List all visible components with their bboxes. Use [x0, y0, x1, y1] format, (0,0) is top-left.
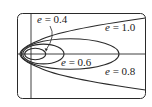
label-e-0-8: e = 0.8 [105, 65, 136, 77]
label-e-0-4: e = 0.4 [37, 13, 68, 25]
label-arrow [46, 26, 52, 50]
conic-diagram: e = 0.4 e = 1.0 e = 0.6 e = 0.8 [0, 0, 152, 107]
label-e-1-0: e = 1.0 [105, 21, 136, 33]
label-e-0-6: e = 0.6 [61, 56, 92, 68]
